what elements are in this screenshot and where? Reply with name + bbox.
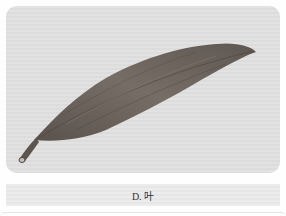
caption-bar: D. 叶 [6, 184, 280, 206]
leaf-blade [34, 43, 256, 140]
leaf-image [6, 6, 280, 173]
next-panel-edge [0, 212, 286, 216]
specimen-photo [6, 6, 280, 173]
petiole-tip [19, 158, 25, 163]
figure-caption: D. 叶 [6, 188, 280, 203]
figure-frame: D. 叶 [0, 0, 286, 216]
